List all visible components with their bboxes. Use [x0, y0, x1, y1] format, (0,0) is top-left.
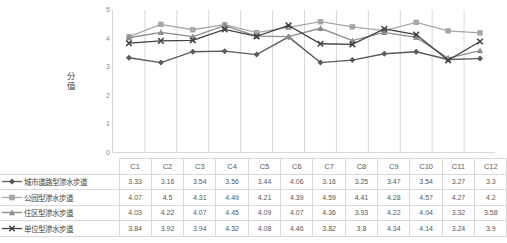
plot-canvas	[112, 10, 495, 153]
data-point-marker	[222, 48, 228, 54]
table-cell: 4.07	[281, 205, 313, 221]
table-cell: 3.16	[313, 174, 345, 190]
y-axis-tick-label: 4	[88, 35, 110, 42]
data-point-marker	[190, 49, 196, 55]
table-cell: 3.94	[184, 221, 216, 237]
table-cell: 4.03	[119, 205, 151, 221]
data-point-marker	[477, 30, 482, 35]
table-cell: 4.14	[410, 221, 442, 237]
y-axis-tick-label: 3	[88, 63, 110, 70]
table-corner-cell	[0, 159, 119, 175]
legend-item-1[interactable]: 公园型渗水步道	[0, 190, 119, 206]
table-header-row: C1C2C3C4C5C6C7C8C9C10C11C12	[0, 159, 507, 175]
chart-plot-area: 分值 543210	[0, 0, 507, 160]
y-axis-tick-label: 0	[88, 149, 110, 156]
table-col-header-c2: C2	[151, 159, 183, 175]
table-cell: 3.8	[345, 221, 377, 237]
table-cell: 4.2	[475, 190, 507, 206]
table-cell: 3.32	[442, 205, 474, 221]
table-col-header-c3: C3	[184, 159, 216, 175]
cross-marker-icon	[2, 225, 22, 232]
table-row: 城市道路型渗水步道3.333.163.543.563.444.063.163.2…	[0, 174, 507, 190]
table-cell: 3.9	[475, 221, 507, 237]
table-cell: 3.58	[475, 205, 507, 221]
table-cell: 3.44	[248, 174, 280, 190]
table-cell: 4.34	[378, 221, 410, 237]
table-cell: 3.27	[442, 174, 474, 190]
data-point-marker	[477, 39, 483, 45]
table-cell: 4.41	[345, 190, 377, 206]
y-axis-tick-label: 5	[88, 6, 110, 13]
data-point-marker	[445, 28, 450, 33]
data-point-marker	[126, 55, 132, 61]
table-cell: 3.47	[378, 174, 410, 190]
diamond-marker-icon	[2, 178, 22, 185]
table-cell: 3.82	[313, 221, 345, 237]
table-row: 住区型渗水步道4.034.224.074.454.094.074.363.934…	[0, 205, 507, 221]
table-cell: 4.46	[281, 221, 313, 237]
table-cell: 3.3	[475, 174, 507, 190]
data-point-marker	[413, 49, 419, 55]
legend-label: 公园型渗水步道	[24, 192, 73, 203]
table-cell: 4.22	[378, 205, 410, 221]
table-row: 单位型渗水步道3.843.923.944.324.084.463.823.84.…	[0, 221, 507, 237]
square-marker-icon	[2, 194, 22, 201]
table-cell: 4.5	[151, 190, 183, 206]
table-cell: 4.49	[216, 190, 248, 206]
data-point-marker	[318, 19, 323, 24]
table-cell: 4.04	[410, 205, 442, 221]
data-point-marker	[158, 60, 164, 66]
data-point-marker	[477, 56, 483, 62]
table-col-header-c9: C9	[378, 159, 410, 175]
table-cell: 3.84	[119, 221, 151, 237]
table-col-header-c1: C1	[119, 159, 151, 175]
table-col-header-c12: C12	[475, 159, 507, 175]
table-cell: 4.07	[119, 190, 151, 206]
table-cell: 4.22	[151, 205, 183, 221]
table-cell: 3.25	[345, 174, 377, 190]
table-col-header-c8: C8	[345, 159, 377, 175]
table-cell: 3.93	[345, 205, 377, 221]
table-cell: 4.27	[442, 190, 474, 206]
table-cell: 3.54	[410, 174, 442, 190]
data-point-marker	[414, 20, 419, 25]
y-axis-ticks: 543210	[82, 0, 110, 160]
table-col-header-c10: C10	[410, 159, 442, 175]
table-cell: 4.45	[216, 205, 248, 221]
table-row: 公园型渗水步道4.074.54.314.494.214.394.594.414.…	[0, 190, 507, 206]
data-point-marker	[254, 52, 260, 58]
data-point-marker	[381, 51, 387, 57]
y-axis-tick-label: 1	[88, 120, 110, 127]
table-cell: 4.32	[216, 221, 248, 237]
table-cell: 3.54	[184, 174, 216, 190]
triangle-marker-icon	[2, 209, 22, 216]
legend-label: 城市道路型渗水步道	[24, 176, 87, 187]
table-col-header-c6: C6	[281, 159, 313, 175]
table-cell: 3.16	[151, 174, 183, 190]
table-col-header-c11: C11	[442, 159, 474, 175]
table-cell: 4.39	[281, 190, 313, 206]
table-cell: 4.57	[410, 190, 442, 206]
table-col-header-c7: C7	[313, 159, 345, 175]
table-cell: 3.33	[119, 174, 151, 190]
chart-figure: 分值 543210 C1C2C3C4C5C6C7C8C9C10C11C12 城市…	[0, 0, 507, 243]
data-table-wrap: C1C2C3C4C5C6C7C8C9C10C11C12 城市道路型渗水步道3.3…	[0, 158, 507, 243]
series-lines-svg	[113, 10, 496, 153]
legend-item-3[interactable]: 单位型渗水步道	[0, 221, 119, 237]
legend-item-2[interactable]: 住区型渗水步道	[0, 205, 119, 221]
legend-label: 单位型渗水步道	[24, 223, 73, 234]
legend-label: 住区型渗水步道	[24, 207, 73, 218]
data-table: C1C2C3C4C5C6C7C8C9C10C11C12 城市道路型渗水步道3.3…	[0, 158, 507, 237]
y-axis-tick-label: 2	[88, 92, 110, 99]
table-cell: 4.07	[184, 205, 216, 221]
data-point-marker	[350, 24, 355, 29]
legend-item-0[interactable]: 城市道路型渗水步道	[0, 174, 119, 190]
table-cell: 4.09	[248, 205, 280, 221]
table-col-header-c4: C4	[216, 159, 248, 175]
table-cell: 4.06	[281, 174, 313, 190]
data-point-marker	[190, 27, 195, 32]
data-point-marker	[158, 22, 163, 27]
table-cell: 4.59	[313, 190, 345, 206]
data-point-marker	[349, 57, 355, 63]
table-cell: 4.36	[313, 205, 345, 221]
